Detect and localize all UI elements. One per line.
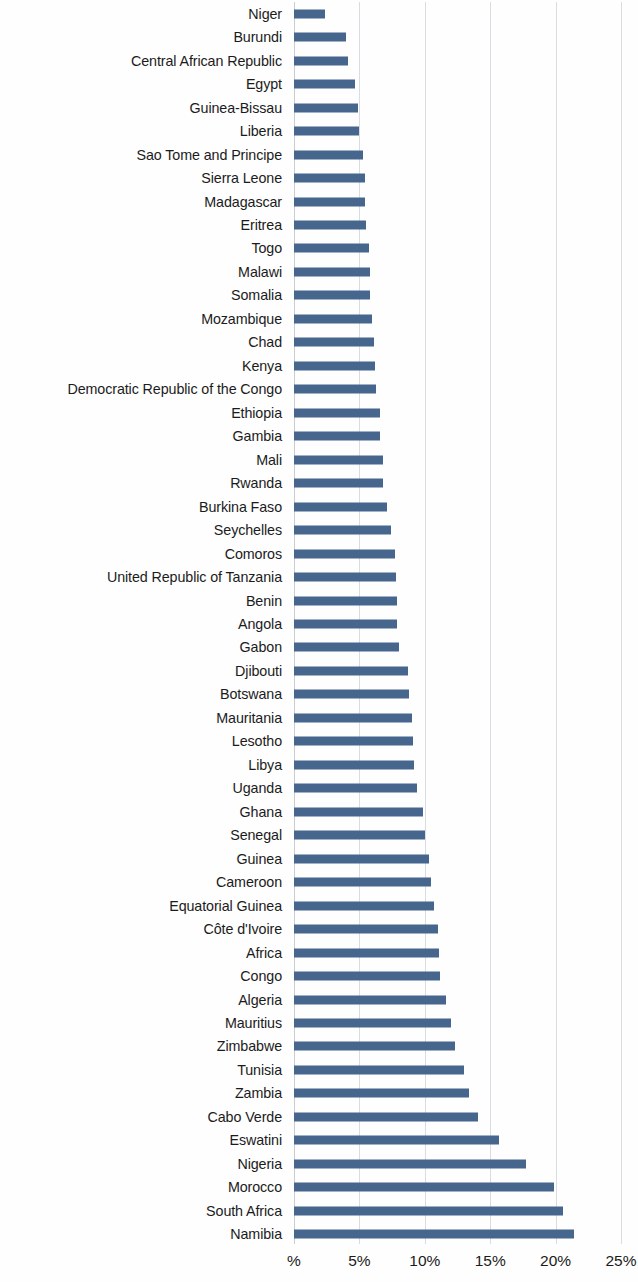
bar xyxy=(294,1183,554,1192)
bar-row: Ghana xyxy=(0,800,638,823)
bar-row: Burkina Faso xyxy=(0,495,638,518)
bar xyxy=(294,56,348,65)
bar xyxy=(294,103,358,112)
bar xyxy=(294,596,397,605)
bar-row: Togo xyxy=(0,237,638,260)
bar xyxy=(294,948,439,957)
bar-row: Democratic Republic of the Congo xyxy=(0,378,638,401)
bar xyxy=(294,361,375,370)
bar-row: Angola xyxy=(0,612,638,635)
bar xyxy=(294,197,365,206)
category-label: Namibia xyxy=(230,1227,282,1241)
bar xyxy=(294,1136,499,1145)
bar-row: Côte d'Ivoire xyxy=(0,917,638,940)
category-label: Eritrea xyxy=(241,218,282,232)
category-label: Cameroon xyxy=(216,875,282,889)
bar-row: Namibia xyxy=(0,1223,638,1246)
bar xyxy=(294,1159,526,1168)
bar-row: United Republic of Tanzania xyxy=(0,565,638,588)
category-label: Central African Republic xyxy=(131,54,282,68)
bar-row: Senegal xyxy=(0,824,638,847)
bar-row: Lesotho xyxy=(0,730,638,753)
bar xyxy=(294,526,391,535)
bar-row: Central African Republic xyxy=(0,49,638,72)
bar xyxy=(294,1065,464,1074)
x-tick-label: 5% xyxy=(348,1252,370,1270)
bar xyxy=(294,338,374,347)
bar xyxy=(294,1230,574,1239)
bar-row: South Africa xyxy=(0,1199,638,1222)
bar xyxy=(294,127,359,136)
bar-row: Africa xyxy=(0,941,638,964)
bar xyxy=(294,854,429,863)
bar-row: Nigeria xyxy=(0,1152,638,1175)
category-label: Djibouti xyxy=(235,664,282,678)
category-label: Chad xyxy=(248,335,282,349)
bar-row: Somalia xyxy=(0,284,638,307)
category-label: Congo xyxy=(240,969,282,983)
bar-row: Niger xyxy=(0,2,638,25)
bar xyxy=(294,549,395,558)
category-label: Egypt xyxy=(246,77,282,91)
bar xyxy=(294,1206,563,1215)
bar-row: Botswana xyxy=(0,683,638,706)
category-label: Somalia xyxy=(231,288,282,302)
bar-row: Eritrea xyxy=(0,213,638,236)
bar xyxy=(294,972,440,981)
category-label: Sierra Leone xyxy=(201,171,282,185)
category-label: Ghana xyxy=(240,805,282,819)
bar-row: Cameroon xyxy=(0,870,638,893)
bar xyxy=(294,150,363,159)
category-label: Democratic Republic of the Congo xyxy=(67,382,282,396)
bar-row: Zimbabwe xyxy=(0,1035,638,1058)
plot-area: NigerBurundiCentral African RepublicEgyp… xyxy=(0,0,638,1246)
category-label: Guinea xyxy=(236,852,282,866)
category-label: Cabo Verde xyxy=(207,1110,282,1124)
category-label: Mauritania xyxy=(216,711,282,725)
category-label: Comoros xyxy=(225,546,282,560)
bar-row: Mauritania xyxy=(0,706,638,729)
bar-row: Seychelles xyxy=(0,518,638,541)
bar xyxy=(294,690,409,699)
category-label: Sao Tome and Principe xyxy=(137,147,282,161)
category-label: Gambia xyxy=(233,429,282,443)
bar xyxy=(294,455,383,464)
bar-row: Madagascar xyxy=(0,190,638,213)
bar-row: Libya xyxy=(0,753,638,776)
category-label: Eswatini xyxy=(230,1133,282,1147)
bar xyxy=(294,408,380,417)
bar xyxy=(294,220,366,229)
category-label: Guinea-Bissau xyxy=(190,100,282,114)
bar xyxy=(294,432,380,441)
bar xyxy=(294,479,383,488)
bar xyxy=(294,385,376,394)
category-label: Ethiopia xyxy=(231,406,282,420)
bar xyxy=(294,1089,469,1098)
category-label: Malawi xyxy=(238,265,282,279)
category-label: Uganda xyxy=(233,781,282,795)
category-label: Mali xyxy=(256,453,282,467)
category-label: Seychelles xyxy=(214,523,282,537)
bar xyxy=(294,174,365,183)
bar xyxy=(294,619,397,628)
x-tick-label: 15% xyxy=(475,1252,506,1270)
category-label: Morocco xyxy=(228,1180,282,1194)
category-label: Madagascar xyxy=(204,194,282,208)
bar xyxy=(294,643,399,652)
category-label: South Africa xyxy=(206,1204,282,1218)
bar-row: Rwanda xyxy=(0,471,638,494)
bar-chart: NigerBurundiCentral African RepublicEgyp… xyxy=(0,0,638,1282)
bar-row: Gabon xyxy=(0,636,638,659)
bar xyxy=(294,314,372,323)
bar-row: Mauritius xyxy=(0,1011,638,1034)
x-tick-label: 20% xyxy=(540,1252,571,1270)
bar xyxy=(294,9,325,18)
bar-row: Zambia xyxy=(0,1082,638,1105)
bar xyxy=(294,573,396,582)
category-label: Libya xyxy=(248,758,282,772)
category-label: Equatorial Guinea xyxy=(169,899,282,913)
bar xyxy=(294,244,369,253)
bar-row: Sao Tome and Principe xyxy=(0,143,638,166)
bar xyxy=(294,80,355,89)
bar xyxy=(294,760,414,769)
